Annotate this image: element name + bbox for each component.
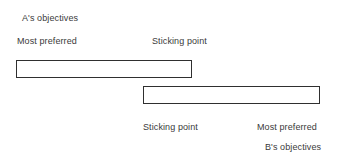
party-b-range-bar — [143, 86, 320, 104]
party-b-sticking-point-label: Sticking point — [143, 122, 198, 133]
party-a-sticking-point-label: Sticking point — [152, 36, 207, 47]
negotiation-range-diagram: A's objectives Most preferred Sticking p… — [0, 0, 340, 160]
party-a-most-preferred-label: Most preferred — [17, 36, 77, 47]
party-a-title: A's objectives — [22, 13, 78, 24]
party-b-title: B's objectives — [265, 142, 321, 153]
party-b-most-preferred-label: Most preferred — [257, 122, 317, 133]
party-a-range-bar — [16, 60, 192, 78]
